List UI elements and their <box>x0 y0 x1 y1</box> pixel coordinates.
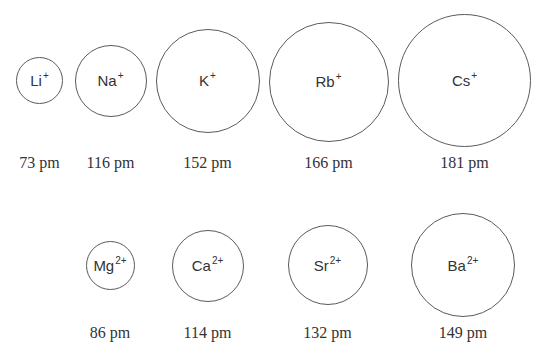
ion-symbol-na: Na+ <box>97 73 123 88</box>
ion-circle-na: Na+ <box>75 45 147 117</box>
ion-charge: + <box>43 70 49 81</box>
radius-label-cs: 181 pm <box>440 154 488 172</box>
radius-label-li: 73 pm <box>19 154 59 172</box>
radius-label-na: 116 pm <box>87 154 135 172</box>
ion-charge: + <box>471 70 477 81</box>
radius-label-ca: 114 pm <box>184 324 232 342</box>
ion-symbol-rb: Rb+ <box>315 74 341 89</box>
ion-symbol-mg: Mg2+ <box>93 258 126 273</box>
ion-circle-sr: Sr2+ <box>288 225 368 305</box>
ion-symbol-cs: Cs+ <box>452 73 477 88</box>
ion-charge: 2+ <box>330 255 341 266</box>
ion-charge: + <box>336 71 342 82</box>
ion-charge: 2+ <box>212 255 223 266</box>
ion-circle-k: K+ <box>156 29 260 133</box>
radius-label-k: 152 pm <box>183 154 231 172</box>
radius-label-mg: 86 pm <box>90 324 130 342</box>
ion-charge: 2+ <box>467 255 478 266</box>
ion-symbol-li: Li+ <box>30 73 49 88</box>
ion-charge: + <box>118 70 124 81</box>
ion-symbol-ca: Ca2+ <box>192 258 224 273</box>
ion-symbol-ba: Ba2+ <box>448 258 479 273</box>
ion-charge: 2+ <box>115 255 126 266</box>
ion-circle-mg: Mg2+ <box>86 241 135 290</box>
radius-label-sr: 132 pm <box>303 324 351 342</box>
ion-circle-ca: Ca2+ <box>172 230 244 302</box>
ion-symbol-k: K+ <box>199 73 216 88</box>
ion-charge: + <box>210 70 216 81</box>
radius-label-ba: 149 pm <box>439 324 487 342</box>
ion-symbol-sr: Sr2+ <box>314 258 341 273</box>
ionic-radii-diagram: Li+ Na+ K+ Rb+ Cs+ 73 pm 116 pm 152 pm 1… <box>0 0 539 358</box>
radius-label-rb: 166 pm <box>304 154 352 172</box>
ion-circle-cs: Cs+ <box>398 14 531 147</box>
ion-circle-li: Li+ <box>16 57 63 104</box>
ion-circle-rb: Rb+ <box>269 22 389 142</box>
ion-circle-ba: Ba2+ <box>411 213 515 317</box>
